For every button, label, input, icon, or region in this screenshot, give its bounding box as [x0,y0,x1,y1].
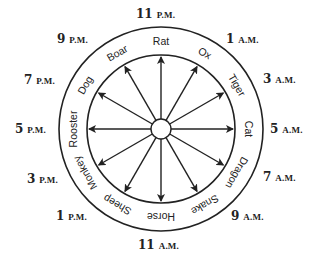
time-label-1-pm: 1P.M. [56,209,87,223]
time-label-5-pm: 5P.M. [15,122,46,136]
animal-label-monkey: Monkey [70,153,99,191]
arrow-to-snake [166,138,197,192]
time-label-5-am: 5A.M. [270,122,303,136]
center-hub [151,119,171,139]
time-label-11-am: 11A.M. [138,238,179,252]
arrow-to-boar [125,67,156,121]
animal-label-rooster: Rooster [67,110,79,147]
time-label-3-am: 3A.M. [263,72,296,86]
time-label-7-pm: 7P.M. [24,73,55,87]
arrow-to-ox [166,67,197,121]
animal-label-horse: Horse [147,211,175,223]
animal-label-dog: Dog [75,74,95,97]
arrow-to-sheep [125,138,156,192]
time-label-9-am: 9A.M. [231,209,264,223]
arrow-to-monkey [99,134,153,165]
animal-label-ox: Ox [196,44,214,61]
animal-label-tiger: Tiger [226,72,248,99]
time-label-9-pm: 9P.M. [57,32,88,46]
arrow-to-tiger [170,93,224,124]
time-label-11-pm: 11P.M. [136,7,175,21]
arrow-to-dog [99,93,153,124]
animal-label-boar: Boar [104,42,130,64]
time-label-3-pm: 3P.M. [27,172,58,186]
time-label-7-am: 7A.M. [263,170,296,184]
arrow-to-dragon [170,134,224,165]
animal-label-rat: Rat [153,35,169,47]
zodiac-wheel-diagram: RatOxTigerCatDragonSnakeHorseSheepMonkey… [0,0,317,261]
animal-label-cat: Cat [243,121,255,137]
time-label-1-am: 1A.M. [226,32,259,46]
